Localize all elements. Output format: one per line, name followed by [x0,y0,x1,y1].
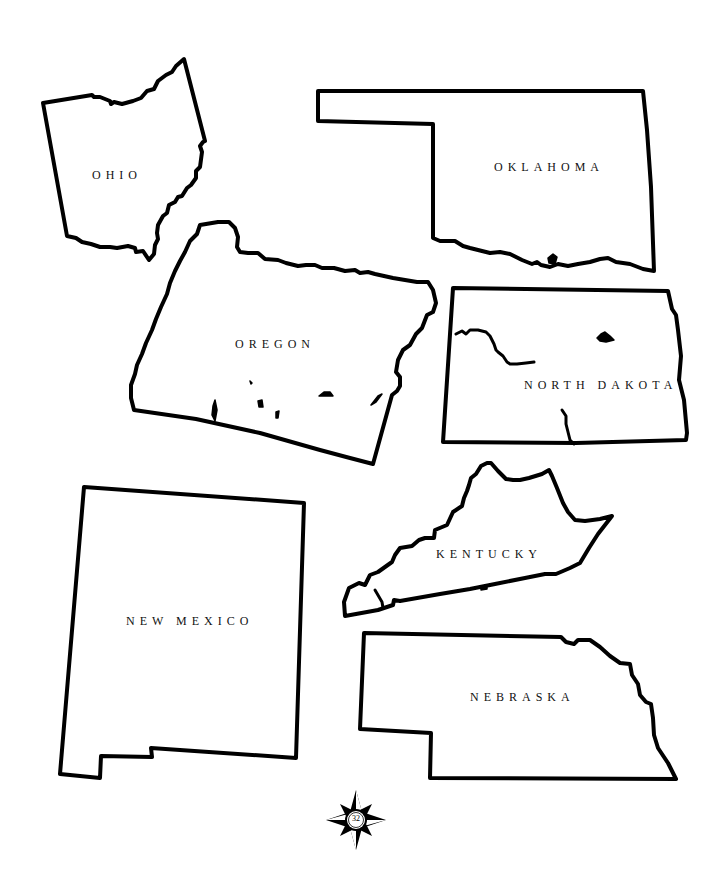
page-number: 32 [345,814,367,823]
state-label-oklahoma: OKLAHOMA [494,160,604,175]
states-map [0,0,723,874]
oregon-lake-3 [276,411,279,418]
state-outline-ohio [43,59,205,260]
oregon-lake-2 [258,400,263,407]
state-outline-kentucky [344,463,612,616]
state-label-ohio: OHIO [92,168,142,183]
state-label-nebraska: NEBRASKA [470,690,575,705]
state-outline-oklahoma [318,91,654,271]
kentucky-lake [481,586,487,590]
state-outline-nebraska [360,633,676,779]
state-label-kentucky: KENTUCKY [436,547,542,562]
state-label-oregon: OREGON [235,337,315,352]
state-label-new-mexico: NEW MEXICO [126,614,253,629]
state-label-north-dakota: NORTH DAKOTA [524,378,677,393]
state-outline-new-mexico [60,487,304,778]
